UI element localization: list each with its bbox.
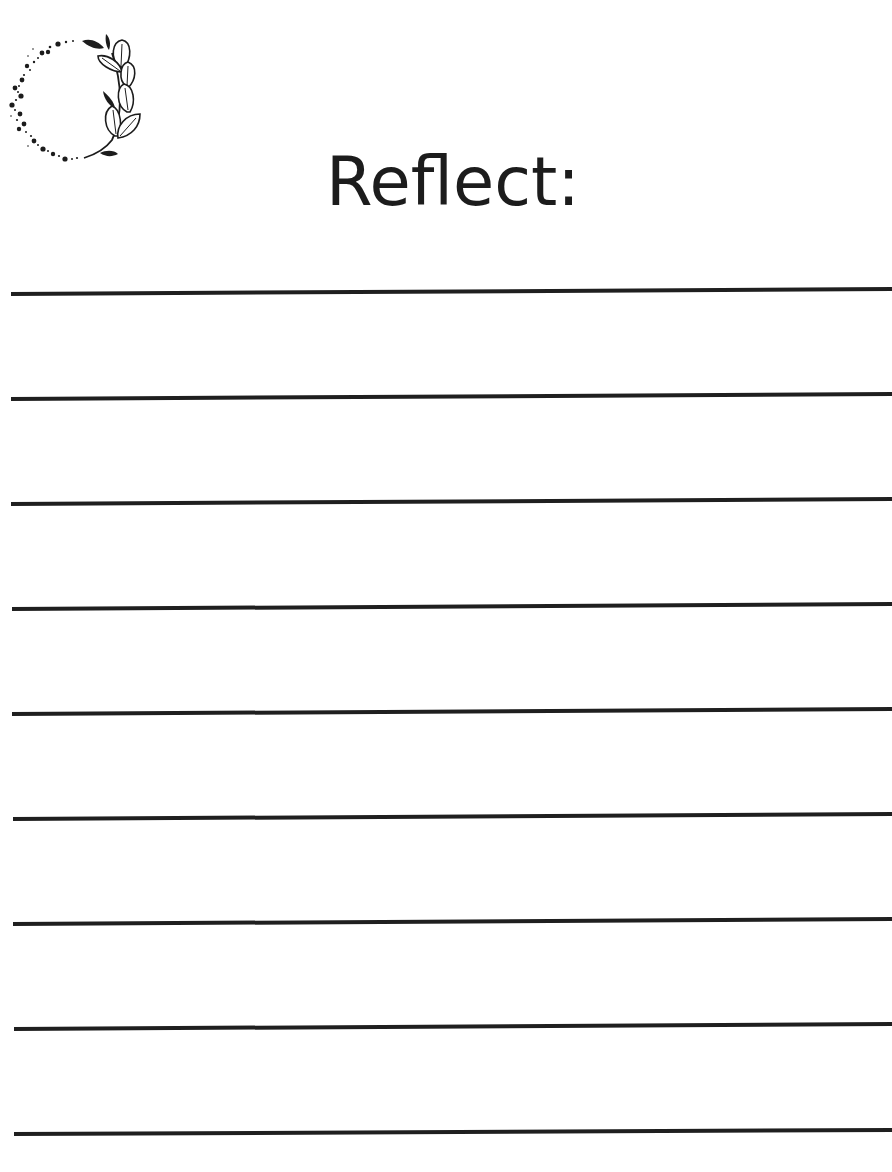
journal-page: Reflect: [0,0,892,1172]
ruled-line [14,1130,892,1134]
ruled-line [12,604,892,609]
ruled-line [14,1024,892,1029]
ruled-line [13,814,892,819]
ruled-line [11,394,892,399]
ruled-line [12,709,892,714]
ruled-line [11,499,892,504]
ruled-line [13,919,892,924]
ruled-line [11,289,892,294]
ruled-lines [0,0,892,1172]
